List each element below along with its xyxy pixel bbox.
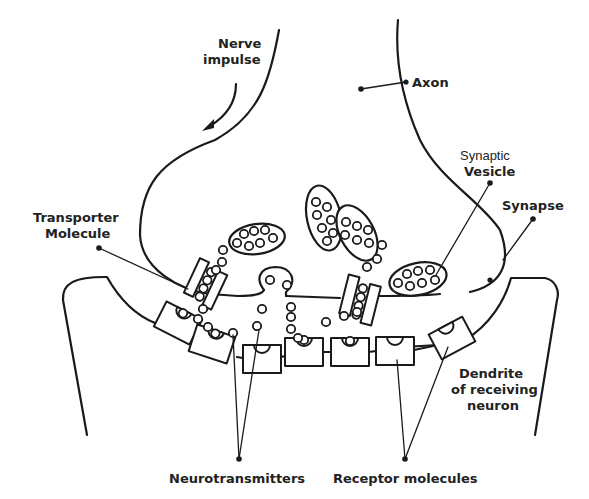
label-dendrite-2: of receiving [451, 382, 538, 397]
label-transporter-2: Molecule [45, 226, 111, 241]
label-synapse: Synapse [502, 198, 564, 213]
label-synaptic-vesicle-2: Vesicle [464, 164, 516, 179]
label-axon: Axon [412, 75, 449, 90]
label-dendrite-3: neuron [467, 398, 519, 413]
label-synaptic-vesicle-1: Synaptic [460, 148, 510, 163]
label-nerve-impulse-2: impulse [203, 52, 261, 67]
label-nerve-impulse-1: Nerve [218, 36, 262, 51]
synaptic-vesicle [227, 220, 287, 258]
label-neurotransmitters: Neurotransmitters [169, 471, 305, 486]
synapse-diagram: Nerve impulse Axon Synaptic Vesicle Syna… [0, 0, 589, 499]
label-transporter-1: Transporter [33, 210, 119, 225]
label-receptor-molecules: Receptor molecules [333, 471, 478, 486]
label-dendrite-1: Dendrite [459, 366, 523, 381]
axon-terminal [140, 20, 505, 298]
nerve-impulse-arrow-icon [202, 84, 236, 131]
